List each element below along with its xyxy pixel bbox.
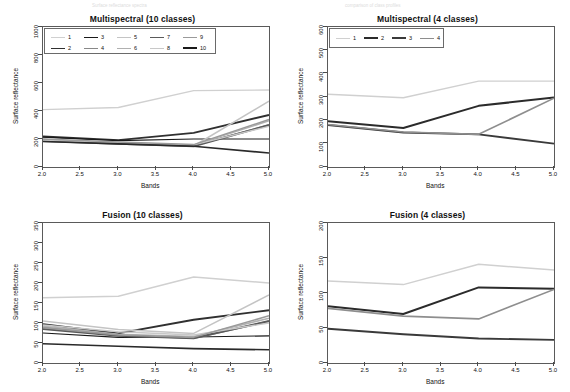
x-tick-mark bbox=[364, 166, 365, 170]
legend-item-6[interactable]: 6 bbox=[117, 45, 137, 51]
y-tick-label: 600 bbox=[318, 25, 324, 43]
legend-item-1[interactable]: 1 bbox=[51, 34, 71, 40]
x-tick-mark bbox=[230, 166, 231, 170]
series-line-1 bbox=[43, 90, 269, 110]
legend-item-9[interactable]: 9 bbox=[183, 34, 203, 40]
y-tick-label: 300 bbox=[318, 95, 324, 113]
x-tick-label: 4.0 bbox=[181, 367, 205, 373]
legend-label: 2 bbox=[381, 35, 384, 41]
legend-line-swatch bbox=[183, 37, 197, 38]
x-tick-mark bbox=[155, 362, 156, 366]
x-tick-label: 3.5 bbox=[143, 171, 167, 177]
panel-multispectral-10-classes: Multispectral (10 classes) 0200400600800… bbox=[0, 0, 285, 196]
x-tick-mark bbox=[327, 362, 328, 366]
x-tick-label: 3.5 bbox=[428, 171, 452, 177]
x-tick-label: 5.0 bbox=[256, 171, 280, 177]
panel-title: Multispectral (10 classes) bbox=[0, 14, 285, 24]
y-tick-label: 200 bbox=[33, 137, 39, 155]
y-tick-label: 50 bbox=[318, 326, 324, 344]
x-tick-mark bbox=[477, 166, 478, 170]
y-tick-label: 600 bbox=[33, 81, 39, 99]
x-tick-label: 4.5 bbox=[503, 367, 527, 373]
series-line-3 bbox=[328, 329, 554, 340]
panel-fusion-4-classes: Fusion (4 classes) 0501001502002.02.53.0… bbox=[285, 196, 570, 392]
legend-item-4[interactable]: 4 bbox=[420, 35, 440, 41]
legend-item-10[interactable]: 10 bbox=[183, 45, 206, 51]
y-axis-label: Surface reflectance bbox=[12, 68, 19, 124]
x-tick-label: 3.0 bbox=[105, 367, 129, 373]
x-tick-mark bbox=[117, 166, 118, 170]
x-tick-mark bbox=[402, 166, 403, 170]
x-tick-label: 5.0 bbox=[256, 367, 280, 373]
legend-line-swatch bbox=[364, 37, 378, 39]
legend-label: 1 bbox=[353, 35, 356, 41]
x-tick-label: 4.0 bbox=[466, 367, 490, 373]
legend-label: 1 bbox=[68, 34, 71, 40]
legend-item-3[interactable]: 3 bbox=[392, 35, 412, 41]
plot-frame bbox=[42, 222, 270, 364]
x-tick-label: 4.0 bbox=[181, 171, 205, 177]
legend-item-2[interactable]: 2 bbox=[364, 35, 384, 41]
series-line-2 bbox=[328, 287, 554, 314]
series-line-2 bbox=[328, 97, 554, 128]
x-tick-label: 3.5 bbox=[428, 367, 452, 373]
legend-item-2[interactable]: 2 bbox=[51, 45, 71, 51]
legend-line-swatch bbox=[183, 47, 197, 49]
legend-label: 3 bbox=[409, 35, 412, 41]
panel-title: Fusion (10 classes) bbox=[0, 210, 285, 220]
y-tick-label: 150 bbox=[318, 256, 324, 274]
panel-fusion-10-classes: Fusion (10 classes) 05010015020025030035… bbox=[0, 196, 285, 392]
y-axis-label: Surface reflectance bbox=[297, 68, 304, 124]
y-tick-label: 800 bbox=[33, 53, 39, 71]
panel-title: Multispectral (4 classes) bbox=[285, 14, 570, 24]
x-tick-mark bbox=[553, 166, 554, 170]
x-tick-label: 4.5 bbox=[218, 367, 242, 373]
legend-item-5[interactable]: 5 bbox=[117, 34, 137, 40]
y-tick-label: 250 bbox=[33, 261, 39, 279]
legend-label: 9 bbox=[200, 34, 203, 40]
series-line-4 bbox=[328, 290, 554, 319]
legend-item-1[interactable]: 1 bbox=[336, 35, 356, 41]
x-tick-mark bbox=[117, 362, 118, 366]
legend[interactable]: 12345678910 bbox=[44, 28, 216, 54]
x-tick-mark bbox=[553, 362, 554, 366]
x-tick-mark bbox=[402, 362, 403, 366]
x-tick-mark bbox=[515, 166, 516, 170]
plot-frame bbox=[327, 222, 555, 364]
x-tick-label: 5.0 bbox=[541, 171, 565, 177]
y-tick-label: 200 bbox=[318, 118, 324, 136]
legend-item-8[interactable]: 8 bbox=[150, 45, 170, 51]
y-tick-label: 50 bbox=[33, 341, 39, 359]
y-tick-label: 350 bbox=[33, 221, 39, 239]
x-tick-label: 2.0 bbox=[30, 367, 54, 373]
legend-line-swatch bbox=[336, 38, 350, 39]
y-tick-label: 200 bbox=[318, 221, 324, 239]
legend-line-swatch bbox=[117, 48, 131, 49]
x-tick-mark bbox=[440, 362, 441, 366]
x-tick-label: 2.0 bbox=[30, 171, 54, 177]
legend[interactable]: 1234 bbox=[329, 28, 444, 48]
x-tick-mark bbox=[477, 362, 478, 366]
x-tick-mark bbox=[155, 166, 156, 170]
x-tick-mark bbox=[192, 166, 193, 170]
figure-canvas: Surface reflectance spectra comparison o… bbox=[0, 0, 570, 392]
legend-label: 8 bbox=[167, 45, 170, 51]
x-axis-label: Bands bbox=[426, 182, 444, 189]
legend-item-7[interactable]: 7 bbox=[150, 34, 170, 40]
legend-label: 10 bbox=[200, 45, 206, 51]
x-tick-mark bbox=[42, 166, 43, 170]
x-tick-mark bbox=[515, 362, 516, 366]
legend-line-swatch bbox=[117, 37, 131, 38]
legend-line-swatch bbox=[51, 37, 65, 38]
y-tick-label: 400 bbox=[33, 109, 39, 127]
series-layer bbox=[43, 223, 269, 363]
x-tick-label: 2.5 bbox=[68, 171, 92, 177]
legend-line-swatch bbox=[84, 37, 98, 38]
legend-line-swatch bbox=[84, 48, 98, 49]
legend-item-4[interactable]: 4 bbox=[84, 45, 104, 51]
series-line-1 bbox=[43, 277, 269, 298]
legend-item-3[interactable]: 3 bbox=[84, 34, 104, 40]
y-tick-label: 100 bbox=[318, 291, 324, 309]
panel-title: Fusion (4 classes) bbox=[285, 210, 570, 220]
y-tick-label: 100 bbox=[318, 142, 324, 160]
